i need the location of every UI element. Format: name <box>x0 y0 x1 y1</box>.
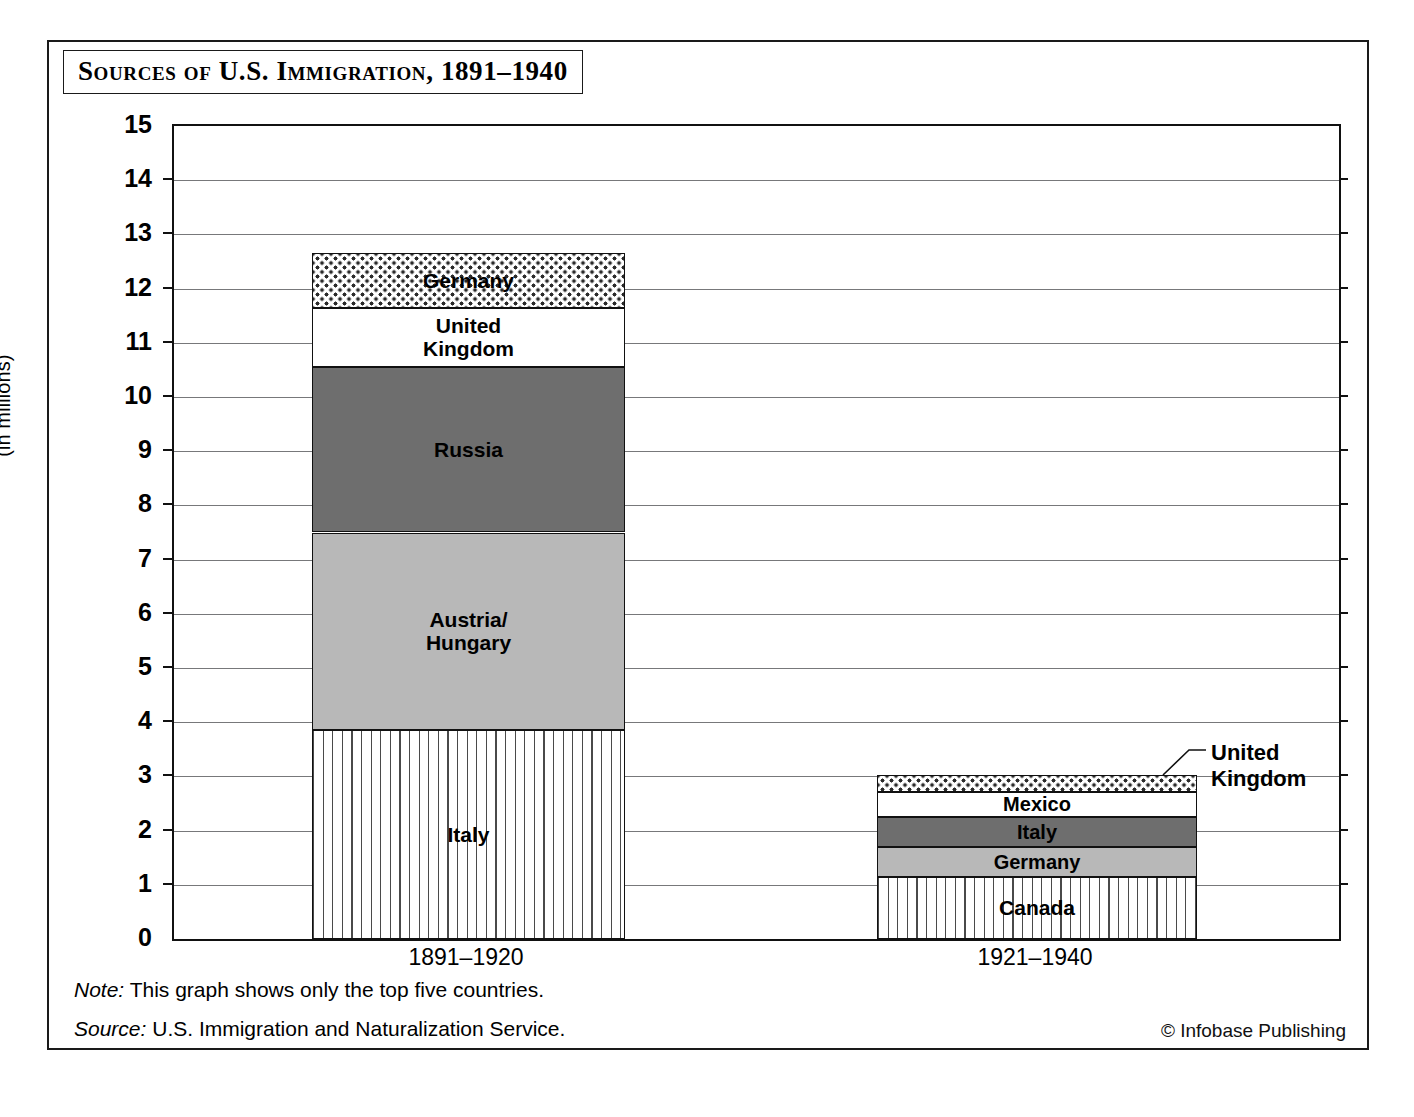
y-axis-tick-label: 8 <box>92 489 162 518</box>
chart-page: Sources of U.S. Immigration, 1891–1940 N… <box>0 0 1414 1117</box>
y-axis-tick-label: 13 <box>92 218 162 247</box>
bar-segment-label: Germany <box>423 269 514 293</box>
bar-segment[interactable]: Russia <box>312 367 625 532</box>
bar-segment-label: Russia <box>434 438 503 462</box>
stacked-bar[interactable]: ItalyAustria/ HungaryRussiaUnited Kingdo… <box>312 126 625 939</box>
y-axis-tick-label: 15 <box>92 110 162 139</box>
page-title: Sources of U.S. Immigration, 1891–1940 <box>78 57 568 85</box>
y-axis-tick-label: 6 <box>92 597 162 626</box>
bar-segment[interactable]: Canada <box>877 877 1197 939</box>
y-axis-tick-label: 1 <box>92 868 162 897</box>
y-axis-tick-mark <box>1339 883 1348 885</box>
bar-segment[interactable]: Mexico <box>877 792 1197 817</box>
y-axis-tick-label: 12 <box>92 272 162 301</box>
y-axis-tick-label: 9 <box>92 435 162 464</box>
footer-note: Note: This graph shows only the top five… <box>74 978 544 1002</box>
y-axis-tick-label: 10 <box>92 381 162 410</box>
y-axis-tick-mark <box>1339 829 1348 831</box>
y-axis-tick-mark <box>1339 232 1348 234</box>
y-axis-tick-mark <box>163 395 172 397</box>
y-axis-tick-label: 14 <box>92 164 162 193</box>
bar-segment-label: Germany <box>994 851 1081 873</box>
y-axis-tick-mark <box>1339 178 1348 180</box>
bar-segment-label: Italy <box>447 823 489 847</box>
footer-note-lead: Note: <box>74 978 124 1001</box>
footer-credit: © Infobase Publishing <box>1161 1020 1346 1042</box>
bar-segment[interactable]: United Kingdom <box>312 308 625 368</box>
bar-segment[interactable]: Austria/ Hungary <box>312 533 625 731</box>
y-axis-tick-mark <box>163 503 172 505</box>
y-axis-tick-label: 4 <box>92 706 162 735</box>
y-axis-tick-mark <box>1339 503 1348 505</box>
bar-segment-label: Austria/ Hungary <box>426 608 511 655</box>
bar-segment[interactable]: Germany <box>312 253 625 307</box>
x-axis-tick-label: 1891–1920 <box>408 944 523 971</box>
y-axis-tick-mark <box>163 666 172 668</box>
plot-area: ItalyAustria/ HungaryRussiaUnited Kingdo… <box>172 124 1341 941</box>
y-axis-tick-mark <box>163 720 172 722</box>
y-axis-title: Number of Immigrants (in millions) <box>0 256 16 556</box>
y-axis-tick-mark <box>1339 774 1348 776</box>
bar-segment-label: Mexico <box>1003 793 1071 815</box>
y-axis-tick-mark <box>163 558 172 560</box>
y-axis-tick-mark <box>1339 449 1348 451</box>
y-axis-title-line2: (in millions) <box>0 354 14 456</box>
y-axis-tick-mark <box>1339 666 1348 668</box>
bar-segment[interactable] <box>877 775 1197 791</box>
y-axis-tick-mark <box>1339 341 1348 343</box>
y-axis-tick-label: 7 <box>92 543 162 572</box>
y-axis-tick-mark <box>163 287 172 289</box>
y-axis-tick-mark <box>163 774 172 776</box>
y-axis-tick-mark <box>163 829 172 831</box>
bar-segment-label: United Kingdom <box>423 314 514 361</box>
y-axis-tick-mark <box>163 178 172 180</box>
uk-callout-label: United Kingdom <box>1211 740 1306 793</box>
y-axis-tick-label: 11 <box>92 326 162 355</box>
footer-source-lead: Source: <box>74 1017 146 1040</box>
y-axis-tick-label: 0 <box>92 923 162 952</box>
y-axis-tick-mark <box>163 612 172 614</box>
y-axis-tick-mark <box>163 341 172 343</box>
bar-segment-label: Canada <box>999 896 1075 920</box>
x-axis-tick-label: 1921–1940 <box>977 944 1092 971</box>
stacked-bar[interactable]: CanadaGermanyItalyMexico <box>877 126 1197 939</box>
bar-segment[interactable]: Italy <box>312 730 625 939</box>
y-axis-tick-mark <box>163 883 172 885</box>
footer-source-text: U.S. Immigration and Naturalization Serv… <box>146 1017 565 1040</box>
bar-segment[interactable]: Germany <box>877 847 1197 877</box>
y-axis-tick-label: 3 <box>92 760 162 789</box>
footer-source: Source: U.S. Immigration and Naturalizat… <box>74 1017 565 1041</box>
y-axis-tick-mark <box>163 449 172 451</box>
y-axis-tick-label: 5 <box>92 652 162 681</box>
bar-segment-label: Italy <box>1017 821 1057 843</box>
y-axis-tick-mark <box>1339 287 1348 289</box>
y-axis-tick-label: 2 <box>92 814 162 843</box>
y-axis-tick-mark <box>1339 395 1348 397</box>
bar-segment[interactable]: Italy <box>877 817 1197 847</box>
y-axis-tick-mark <box>1339 558 1348 560</box>
chart-title-box: Sources of U.S. Immigration, 1891–1940 <box>63 50 583 94</box>
y-axis-tick-mark <box>163 232 172 234</box>
footer-note-text: This graph shows only the top five count… <box>124 978 544 1001</box>
y-axis-tick-mark <box>1339 720 1348 722</box>
y-axis-tick-mark <box>1339 612 1348 614</box>
